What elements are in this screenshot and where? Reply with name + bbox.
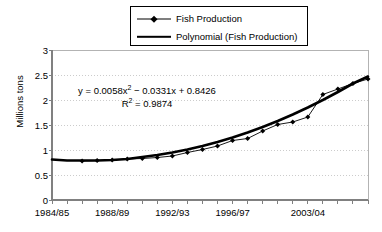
fish-production-chart: Fish Production Polynomial (Fish Product… [0, 0, 382, 232]
x-tick-label: 1984/85 [22, 208, 82, 218]
x-tick-label: 1992/93 [142, 208, 202, 218]
x-tick-label: 2003/04 [278, 208, 338, 218]
plot-area [0, 0, 382, 232]
r-squared-annotation: R2 = 0.9874 [72, 97, 222, 110]
trendline-equation-annotation: y = 0.0058x2 − 0.0331x + 0.8426 [72, 84, 222, 97]
x-tick-label: 1996/97 [203, 208, 263, 218]
x-tick-label: 1988/89 [82, 208, 142, 218]
